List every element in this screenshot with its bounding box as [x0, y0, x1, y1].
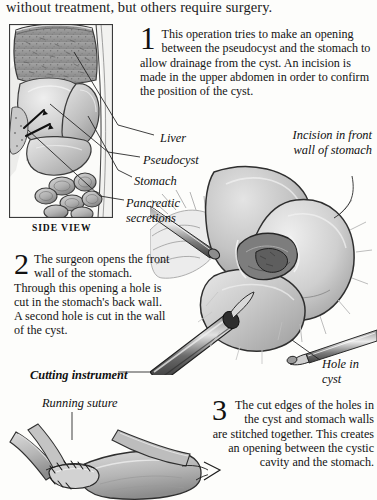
running-suture-stitches [50, 461, 90, 489]
label-running-suture: Running suture [42, 396, 118, 410]
label-liver: Liver [160, 131, 186, 145]
leader-line-hole [292, 340, 320, 360]
side-view-panel-art [9, 24, 113, 221]
step-2-text: The surgeon opens the front wall of the … [14, 252, 172, 338]
label-hole-in-cyst: Hole in cyst [322, 357, 374, 386]
label-incision-front-wall: Incision in front wall of stomach [292, 128, 372, 157]
step-2-block: 2 The surgeon opens the front wall of th… [14, 252, 172, 338]
label-pseudocyst: Pseudocyst [143, 153, 199, 167]
illustration-page: without treatment, but others require su… [0, 0, 377, 500]
step-3-block: 3 The cut edges of the holes in the cyst… [212, 398, 374, 469]
step-1-number: 1 [140, 26, 162, 51]
step-3-text: The cut edges of the holes in the cyst a… [212, 398, 374, 469]
label-cutting-instrument: Cutting instrument [30, 368, 127, 382]
leader-line-incision [334, 176, 353, 218]
step-1-text: This operation tries to make an opening … [140, 27, 372, 98]
label-pancreatic-secretions: Pancreatic secretions [126, 196, 206, 225]
step-2-number: 2 [14, 251, 34, 276]
label-stomach: Stomach [134, 174, 177, 188]
step-1-block: 1 This operation tries to make an openin… [140, 27, 372, 98]
running-header-text: without treatment, but others require su… [6, 0, 371, 16]
suture-illustration-art [10, 424, 224, 499]
step-3-number: 3 [212, 397, 232, 422]
side-view-caption: SIDE VIEW [32, 222, 91, 233]
